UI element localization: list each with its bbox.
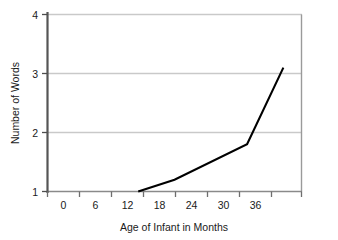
chart-container: 4 3 2 1 0 6 12 18 24 30 36 Age of Infant… xyxy=(0,0,338,240)
x-tick-label-24: 24 xyxy=(186,199,198,211)
x-tick-label-6: 6 xyxy=(93,199,99,211)
y-tick-label-2: 2 xyxy=(32,127,38,139)
x-axis-title: Age of Infant in Months xyxy=(120,221,228,233)
x-tick-label-12: 12 xyxy=(122,199,134,211)
x-tick-label-18: 18 xyxy=(154,199,166,211)
y-axis-title: Number of Words xyxy=(9,62,21,144)
chart-background xyxy=(0,0,338,240)
x-tick-label-0: 0 xyxy=(61,199,67,211)
y-tick-label-3: 3 xyxy=(32,68,38,80)
y-tick-label-4: 4 xyxy=(32,9,38,21)
line-chart: 4 3 2 1 0 6 12 18 24 30 36 Age of Infant… xyxy=(0,0,338,240)
x-tick-label-30: 30 xyxy=(218,199,230,211)
y-tick-label-1: 1 xyxy=(32,186,38,198)
x-tick-label-36: 36 xyxy=(250,199,262,211)
